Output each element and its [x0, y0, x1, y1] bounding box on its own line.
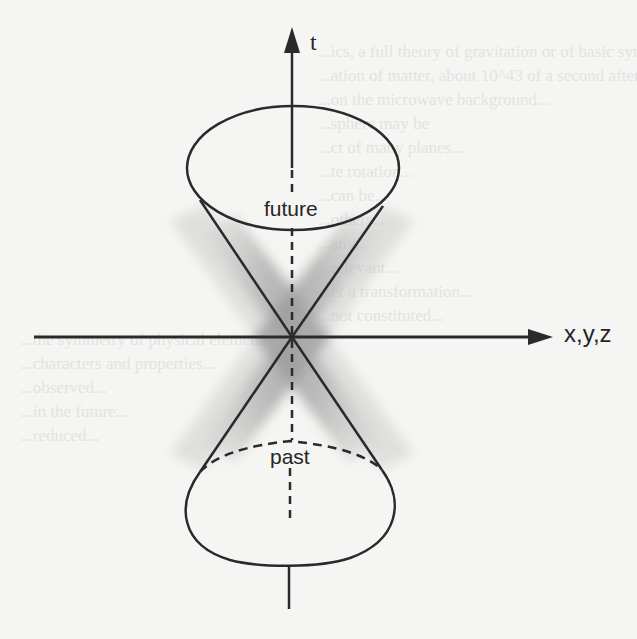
arrow-up-icon	[284, 27, 300, 53]
time-axis-label: t	[310, 30, 317, 54]
past-label: past	[270, 446, 310, 467]
document-page: ...ics, a full theory of gravitation or …	[0, 0, 637, 639]
arrow-right-icon	[528, 329, 553, 345]
light-cone-diagram	[0, 0, 637, 639]
space-axis-label: x,y,z	[564, 322, 612, 346]
future-label: future	[264, 198, 318, 219]
